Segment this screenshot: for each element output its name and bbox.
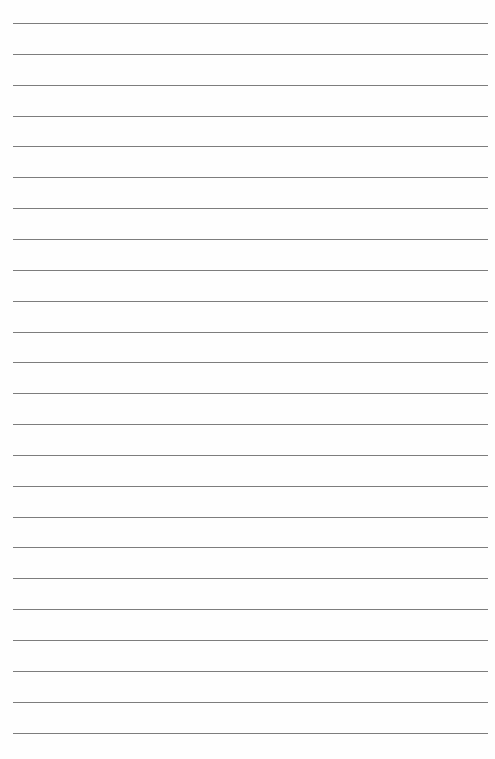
ruled-line (13, 547, 488, 548)
ruled-line (13, 239, 488, 240)
ruled-line (13, 23, 488, 24)
ruled-line (13, 517, 488, 518)
ruled-line (13, 301, 488, 302)
ruled-line (13, 486, 488, 487)
ruled-line (13, 270, 488, 271)
ruled-line (13, 362, 488, 363)
ruled-line (13, 578, 488, 579)
ruled-line (13, 146, 488, 147)
ruled-line (13, 393, 488, 394)
ruled-line (13, 177, 488, 178)
ruled-line (13, 455, 488, 456)
ruled-line (13, 332, 488, 333)
ruled-line (13, 54, 488, 55)
ruled-line (13, 671, 488, 672)
ruled-line (13, 640, 488, 641)
lined-paper-page (0, 0, 495, 759)
ruled-line (13, 85, 488, 86)
ruled-line (13, 208, 488, 209)
ruled-line (13, 609, 488, 610)
ruled-line (13, 116, 488, 117)
ruled-line (13, 733, 488, 734)
ruled-line (13, 424, 488, 425)
ruled-line (13, 702, 488, 703)
